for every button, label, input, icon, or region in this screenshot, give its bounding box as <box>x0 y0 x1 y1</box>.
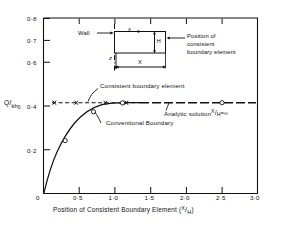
x-axis-title: Position of Consistent Boundary Element … <box>53 205 194 214</box>
y-tick-label-0-7: 0·7 <box>27 37 37 44</box>
x-tick-label-1-5: 1·5 <box>145 194 155 201</box>
x-tick-label-1-0: 1·0 <box>109 194 119 201</box>
x-tick-label-2-0: 2·0 <box>180 194 190 201</box>
inset-wall-label: Wall <box>78 30 90 36</box>
y-tick-label-0-4: 0·4 <box>27 103 37 110</box>
x-tick-label-2-5: 2·5 <box>216 194 226 201</box>
inset-position-line-2: consistent <box>187 41 215 47</box>
plot-frame <box>44 18 259 194</box>
inset-x-axis-label: x <box>128 26 131 32</box>
condition-equals-infinity: =∞ <box>221 110 228 116</box>
condition-numerator: X <box>211 108 215 114</box>
y-tick-label-0: 0 <box>36 194 40 201</box>
y-axis-title-denominator: kh <box>11 103 17 109</box>
inset-diagram <box>97 24 185 72</box>
inset-distance-label: X <box>138 59 142 65</box>
condition-denominator: H <box>217 111 221 117</box>
annotation-analytic-solution-condition: X/H=∞ <box>211 109 228 116</box>
leader-conventional-boundary <box>95 112 101 123</box>
x-axis-title-denominator: H <box>187 209 191 215</box>
x-axis-title-numerator: X <box>181 205 185 211</box>
figure-canvas <box>0 0 282 229</box>
annotation-conventional-boundary: Conventional Boundary <box>106 119 173 126</box>
x-tick-label-0-5: 0·5 <box>73 194 83 201</box>
y-axis-title: Q/kh0 <box>4 98 21 107</box>
top-axis-ticks <box>79 19 222 25</box>
annotation-consistent-boundary-element: Consistent boundary element <box>100 82 185 89</box>
inset-z-axis-label: z <box>109 55 112 61</box>
series-analytic-solution <box>140 101 256 105</box>
leader-consistent-boundary <box>88 89 98 102</box>
x-tick-label-3-0: 3·0 <box>250 194 260 201</box>
inset-position-line-3: boundary element <box>187 49 236 55</box>
y-axis-ticks <box>44 19 51 194</box>
analytic-solution-marker <box>220 101 224 105</box>
y-axis-title-subscript: 0 <box>18 104 21 110</box>
x-axis-title-text: Position of Consistent Boundary Element … <box>53 206 181 213</box>
annotation-analytic-solution: Analytic solution <box>164 110 211 117</box>
annotation-analytic-solution-text: Analytic solution <box>164 110 211 117</box>
inset-position-line-1: Position of <box>187 33 216 39</box>
y-tick-label-0-2: 0·2 <box>27 147 37 154</box>
conventional-boundary-curve <box>44 102 140 193</box>
y-tick-label-0-6: 0·6 <box>27 59 37 66</box>
series-conventional-boundary <box>44 101 140 194</box>
inset-height-label: H <box>157 38 161 44</box>
x-axis-ticks <box>79 187 222 194</box>
y-tick-label-0-8: 0·8 <box>27 15 37 22</box>
